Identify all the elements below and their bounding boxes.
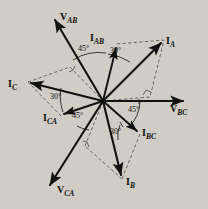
label-I_AB: IAB xyxy=(90,33,104,46)
phasor-diagram-figure: VAB VBC VCA IA IB IC IAB IBC ICA 45° 30°… xyxy=(0,0,208,209)
label-V_CA: VCA xyxy=(57,185,74,198)
angle-label-vbc-ibc: 45° xyxy=(128,106,139,114)
label-I_A: IA xyxy=(166,36,175,49)
label-V_BC: VBC xyxy=(170,104,187,117)
vector-I_C xyxy=(31,83,103,101)
angle-label-ic-ica: 30° xyxy=(50,93,61,101)
label-I_CA: ICA xyxy=(43,113,57,126)
vector-I_B xyxy=(103,101,121,175)
arc-30-iab-ia xyxy=(108,54,130,62)
label-I_B: IB xyxy=(126,177,135,190)
angle-label-ibc-ib: 30° xyxy=(110,128,121,136)
label-I_C: IC xyxy=(8,79,17,92)
angle-label-ica-vca: 45° xyxy=(72,112,83,120)
angle-label-iab-ia: 30° xyxy=(110,47,121,55)
label-I_BC: IBC xyxy=(142,128,156,141)
phasor-rays xyxy=(31,20,183,185)
label-V_AB: VAB xyxy=(60,12,77,25)
angle-label-vab-iab: 45° xyxy=(78,45,89,53)
